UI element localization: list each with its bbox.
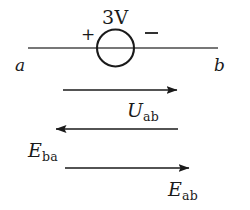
- terminal-a-label: a: [15, 57, 25, 74]
- label-u-ab-subscript: ab: [143, 109, 159, 124]
- terminal-b-label: b: [214, 57, 225, 74]
- circuit-diagram-figure: 3V + a b Uab Eba Eab: [0, 0, 250, 210]
- label-e-ab-subscript: ab: [182, 188, 198, 203]
- diagram-canvas: [0, 0, 250, 210]
- source-value-label: 3V: [102, 8, 129, 27]
- label-e-ab: Eab: [168, 180, 198, 199]
- label-e-ba: Eba: [28, 141, 58, 160]
- label-e-ba-subscript: ba: [42, 149, 58, 164]
- label-e-ba-symbol: E: [28, 139, 42, 161]
- label-u-ab: Uab: [127, 101, 159, 120]
- positive-terminal-label: +: [81, 26, 95, 43]
- label-u-ab-symbol: U: [127, 99, 143, 121]
- label-e-ab-symbol: E: [168, 178, 182, 200]
